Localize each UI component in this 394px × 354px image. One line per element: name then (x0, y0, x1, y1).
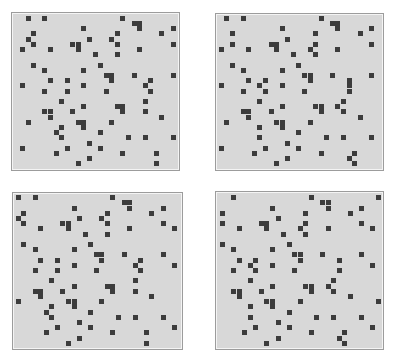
live-cell (116, 315, 121, 320)
live-cell (161, 221, 166, 226)
live-cell (44, 330, 49, 335)
live-cell (81, 68, 86, 73)
live-cell (38, 258, 43, 263)
live-cell (276, 320, 281, 325)
live-cell (302, 73, 307, 78)
live-cell (65, 89, 70, 94)
live-cell (337, 268, 342, 273)
live-cell (314, 315, 319, 320)
live-cell (49, 278, 54, 283)
live-cell (154, 151, 159, 156)
live-cell (60, 221, 65, 226)
live-cell (242, 330, 247, 335)
live-cell (72, 263, 77, 268)
live-cell (298, 299, 303, 304)
live-cell (21, 242, 26, 247)
live-cell (143, 135, 148, 140)
live-cell (66, 341, 71, 346)
live-cell (259, 289, 264, 294)
live-cell (110, 195, 115, 200)
live-cell (105, 221, 110, 226)
live-cell (246, 115, 251, 120)
live-cell (144, 330, 149, 335)
live-cell (369, 42, 374, 47)
live-cell (72, 247, 77, 252)
live-cell (331, 278, 336, 283)
live-cell (115, 52, 120, 57)
live-cell (161, 252, 166, 257)
live-cell (231, 247, 236, 252)
live-cell (127, 206, 132, 211)
live-cell (115, 42, 120, 47)
live-cell (224, 16, 229, 21)
live-cell (319, 151, 324, 156)
live-cell (148, 78, 153, 83)
live-cell (309, 195, 314, 200)
live-cell (26, 16, 31, 21)
live-cell (264, 299, 269, 304)
live-cell (65, 78, 70, 83)
live-cell (280, 104, 285, 109)
live-cell (94, 268, 99, 273)
live-cell (308, 78, 313, 83)
live-cell (172, 325, 177, 330)
live-cell (224, 120, 229, 125)
live-cell (172, 263, 177, 268)
live-cell (20, 47, 25, 52)
live-cell (308, 120, 313, 125)
live-cell (303, 221, 308, 226)
live-cell (42, 109, 47, 114)
live-cell (133, 278, 138, 283)
live-cell (220, 221, 225, 226)
live-cell (270, 304, 275, 309)
live-cell (376, 299, 381, 304)
live-cell (115, 31, 120, 36)
live-cell (231, 195, 236, 200)
live-cell (248, 304, 253, 309)
live-cell (370, 226, 375, 231)
live-cell (42, 68, 47, 73)
live-cell (230, 63, 235, 68)
grid-panel-4 (215, 191, 384, 350)
live-cell (138, 268, 143, 273)
live-cell (237, 294, 242, 299)
live-cell (55, 268, 60, 273)
live-cell (253, 268, 258, 273)
live-cell (154, 161, 159, 166)
live-cell (241, 68, 246, 73)
live-cell (280, 26, 285, 31)
live-cell (48, 78, 53, 83)
live-cell (369, 26, 374, 31)
live-cell (33, 195, 38, 200)
live-cell (347, 89, 352, 94)
live-cell (31, 31, 36, 36)
live-cell (248, 315, 253, 320)
live-cell (246, 47, 251, 52)
live-cell (31, 63, 36, 68)
live-cell (171, 73, 176, 78)
live-cell (291, 52, 296, 57)
live-cell (77, 336, 82, 341)
live-cell (257, 83, 262, 88)
grid-panel-1 (11, 12, 180, 171)
live-cell (220, 242, 225, 247)
live-cell (72, 284, 77, 289)
live-cell (72, 206, 77, 211)
live-cell (270, 263, 275, 268)
live-cell (120, 109, 125, 114)
live-cell (230, 42, 235, 47)
live-cell (359, 315, 364, 320)
live-cell (60, 289, 65, 294)
live-cell (109, 37, 114, 42)
live-cell (358, 31, 363, 36)
live-cell (309, 289, 314, 294)
live-cell (270, 284, 275, 289)
live-cell (298, 252, 303, 257)
live-cell (330, 73, 335, 78)
live-cell (93, 52, 98, 57)
live-cell (171, 135, 176, 140)
live-cell (66, 226, 71, 231)
live-cell (99, 216, 104, 221)
live-cell (326, 200, 331, 205)
live-cell (219, 146, 224, 151)
